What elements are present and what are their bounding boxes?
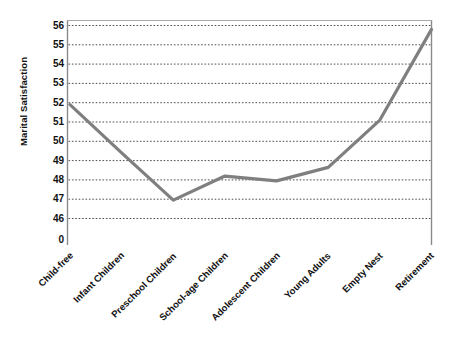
x-axis-tick-label: Retirement — [393, 250, 436, 293]
x-axis-tick-label: Child-free — [36, 250, 75, 289]
x-axis-tick-labels: Child-freeInfant ChildrenPreschool Child… — [0, 0, 450, 341]
x-axis-tick-label: Empty Nest — [340, 250, 385, 295]
x-axis-tick-label: Infant Children — [71, 250, 126, 305]
x-axis-tick-label: Young Adults — [282, 250, 333, 301]
line-chart: Marital Satisfaction 5655545352515049484… — [0, 0, 450, 341]
